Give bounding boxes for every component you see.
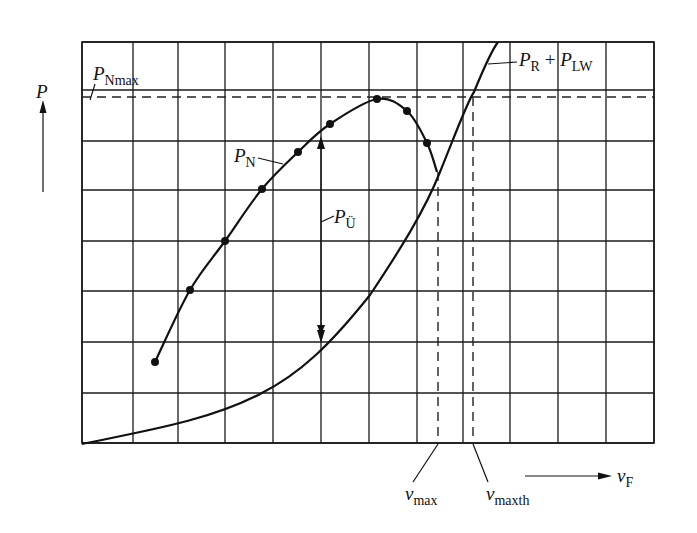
v-maxth-leader bbox=[473, 444, 488, 482]
p-r-lw-leader bbox=[488, 62, 517, 64]
x-axis-arrowhead-icon bbox=[598, 473, 612, 480]
x-axis-label: vF bbox=[617, 466, 633, 490]
p-n-main: P bbox=[234, 145, 246, 166]
p-r-main: P bbox=[519, 49, 531, 70]
p-r-plus-p-lw-curve bbox=[82, 42, 498, 444]
x-axis-label-sub: F bbox=[625, 475, 633, 490]
data-point-marker bbox=[294, 148, 302, 156]
p-r-sub: R bbox=[531, 59, 540, 74]
y-axis-label-text: P bbox=[36, 81, 48, 102]
p-n-data-points bbox=[151, 95, 431, 366]
data-point-marker bbox=[221, 237, 229, 245]
data-point-marker bbox=[403, 107, 411, 115]
data-point-marker bbox=[373, 95, 381, 103]
v-max-leader bbox=[413, 444, 438, 482]
v-maxth-label: vmaxth bbox=[486, 484, 529, 508]
plus-sign: + bbox=[540, 49, 560, 70]
p-r-lw-label: PR + PLW bbox=[519, 50, 593, 74]
v-maxth-sub: maxth bbox=[494, 493, 529, 508]
p-nmax-main: P bbox=[93, 63, 105, 84]
p-nmax-label: PNmax bbox=[93, 64, 139, 88]
p-lw-sub: LW bbox=[572, 59, 593, 74]
data-point-marker bbox=[151, 358, 159, 366]
p-nmax-sub: Nmax bbox=[105, 73, 139, 88]
data-point-marker bbox=[258, 185, 266, 193]
p-u-sub: Ü bbox=[346, 216, 356, 231]
data-point-marker bbox=[186, 286, 194, 294]
data-point-marker bbox=[423, 139, 431, 147]
p-u-leader bbox=[321, 216, 334, 222]
p-n-curve bbox=[155, 99, 437, 362]
v-max-sub: max bbox=[413, 493, 437, 508]
p-u-main: P bbox=[334, 206, 346, 227]
y-axis-label: P bbox=[36, 82, 48, 101]
data-point-marker bbox=[326, 120, 334, 128]
p-u-label: PÜ bbox=[334, 207, 356, 231]
p-u-arrow-top-icon bbox=[317, 136, 325, 149]
p-n-leader bbox=[258, 158, 283, 164]
p-n-sub: N bbox=[246, 155, 256, 170]
p-u-arrow-bottom-icon bbox=[317, 330, 325, 343]
p-n-label: PN bbox=[234, 146, 256, 170]
p-lw-main: P bbox=[560, 49, 572, 70]
v-max-label: vmax bbox=[405, 484, 438, 508]
